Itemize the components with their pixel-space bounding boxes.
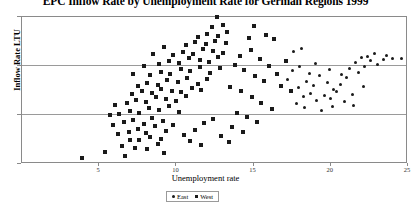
data-point-west — [199, 88, 203, 92]
data-point-west — [144, 100, 148, 104]
data-point-west — [184, 43, 188, 47]
data-point-east — [300, 47, 303, 50]
legend-entry-east: East — [172, 193, 188, 200]
data-point-west — [153, 124, 157, 128]
data-point-west — [259, 101, 263, 105]
data-point-west — [131, 118, 135, 122]
data-point-east — [318, 74, 321, 77]
data-point-east — [348, 67, 351, 70]
data-point-west — [210, 25, 214, 29]
gridline — [22, 114, 406, 115]
data-point-west — [279, 84, 283, 88]
x-axis-tick-label: 20 — [315, 166, 345, 173]
data-point-west — [264, 33, 268, 37]
data-point-west — [167, 59, 171, 63]
data-point-west — [159, 70, 163, 74]
data-point-west — [255, 120, 259, 124]
data-point-west — [159, 137, 163, 141]
data-point-west — [198, 65, 202, 69]
legend-entry-west: West — [195, 193, 213, 200]
data-point-west — [168, 72, 172, 76]
data-point-east — [297, 86, 300, 89]
data-point-west — [137, 138, 141, 142]
data-point-east — [286, 78, 289, 81]
data-point-west — [249, 48, 253, 52]
chart-title: EPC Inflow Rate by Unemployment Rate for… — [0, 0, 411, 7]
data-point-east — [340, 73, 343, 76]
data-point-east — [339, 83, 342, 86]
data-point-west — [193, 128, 197, 132]
data-point-west — [142, 64, 146, 68]
data-point-west — [187, 56, 191, 60]
data-point-west — [150, 91, 154, 95]
x-axis-tick-label: 5 — [83, 166, 113, 173]
data-point-east — [320, 109, 323, 112]
data-point-west — [130, 92, 134, 96]
data-point-west — [224, 41, 228, 45]
data-point-east — [385, 54, 388, 57]
y-axis-tick-mark — [17, 65, 21, 66]
data-point-west — [154, 95, 158, 99]
data-point-west — [164, 97, 168, 101]
data-point-west — [215, 15, 219, 19]
data-point-west — [235, 111, 239, 115]
x-axis-tick-mark — [330, 163, 331, 166]
data-point-east — [357, 71, 360, 74]
data-point-west — [133, 146, 137, 150]
data-point-west — [262, 79, 266, 83]
data-point-west — [199, 143, 203, 147]
data-point-west — [202, 121, 206, 125]
data-point-west — [161, 119, 165, 123]
data-point-west — [241, 130, 245, 134]
data-point-west — [164, 129, 168, 133]
data-point-west — [167, 104, 171, 108]
data-point-east — [302, 95, 305, 98]
data-point-west — [190, 86, 194, 90]
data-point-east — [335, 90, 338, 93]
data-point-west — [238, 54, 242, 58]
data-point-west — [181, 50, 185, 54]
data-point-west — [151, 52, 155, 56]
data-point-east — [303, 106, 306, 109]
data-point-west — [228, 85, 232, 89]
y-axis-tick-mark — [17, 114, 21, 115]
data-point-east — [291, 69, 294, 72]
data-point-west — [225, 30, 229, 34]
legend-swatch-icon — [195, 195, 198, 198]
data-point-east — [329, 97, 332, 100]
data-point-west — [179, 90, 183, 94]
data-point-west — [218, 66, 222, 70]
data-point-west — [162, 151, 166, 155]
data-point-west — [162, 45, 166, 49]
data-point-east — [314, 62, 317, 65]
data-point-west — [136, 84, 140, 88]
data-point-west — [258, 57, 262, 61]
data-point-west — [191, 52, 195, 56]
data-point-east — [400, 57, 403, 60]
data-point-west — [182, 133, 186, 137]
data-point-west — [289, 89, 293, 93]
data-point-west — [148, 135, 152, 139]
data-point-west — [145, 147, 149, 151]
data-point-east — [326, 81, 329, 84]
data-point-west — [103, 150, 107, 154]
data-point-west — [117, 112, 121, 116]
data-point-west — [157, 108, 161, 112]
data-point-east — [376, 63, 379, 66]
data-point-east — [351, 93, 354, 96]
data-point-west — [80, 156, 84, 160]
data-point-west — [213, 39, 217, 43]
data-point-west — [239, 89, 243, 93]
data-point-east — [363, 65, 366, 68]
data-point-west — [131, 72, 135, 76]
data-point-west — [176, 80, 180, 84]
data-point-west — [275, 72, 279, 76]
data-point-west — [221, 51, 225, 55]
legend-label: East — [177, 193, 188, 200]
data-point-west — [227, 140, 231, 144]
data-point-west — [216, 55, 220, 59]
data-point-west — [252, 24, 256, 28]
data-point-west — [145, 81, 149, 85]
data-point-west — [284, 59, 288, 63]
x-axis-tick-mark — [98, 163, 99, 166]
